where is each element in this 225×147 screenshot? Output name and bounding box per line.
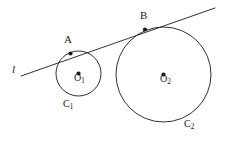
center-o2-label: O2 (160, 74, 171, 86)
circle-c2-label-base: C (184, 118, 191, 129)
point-a-label: A (64, 34, 72, 45)
center-o1-label: O1 (74, 73, 85, 85)
tangency-point-a-dot (68, 51, 72, 55)
point-b-label: B (140, 10, 147, 21)
center-o2-label-sub: 2 (167, 78, 171, 86)
tangency-point-b-dot (143, 27, 147, 31)
tangent-line-label: l (12, 64, 15, 75)
circle-c2-label-sub: 2 (191, 123, 195, 131)
circle-c1-label-base: C (63, 98, 70, 109)
tangent-line (21, 8, 215, 76)
point-b-label-text: B (140, 9, 147, 21)
circle-c1-label: C1 (63, 99, 73, 111)
center-o1-label-sub: 1 (81, 77, 85, 85)
geometry-diagram: l A B O1 O2 C1 C2 (0, 0, 225, 147)
circle-c2-label: C2 (184, 119, 194, 131)
circle-c1-label-sub: 1 (70, 103, 74, 111)
